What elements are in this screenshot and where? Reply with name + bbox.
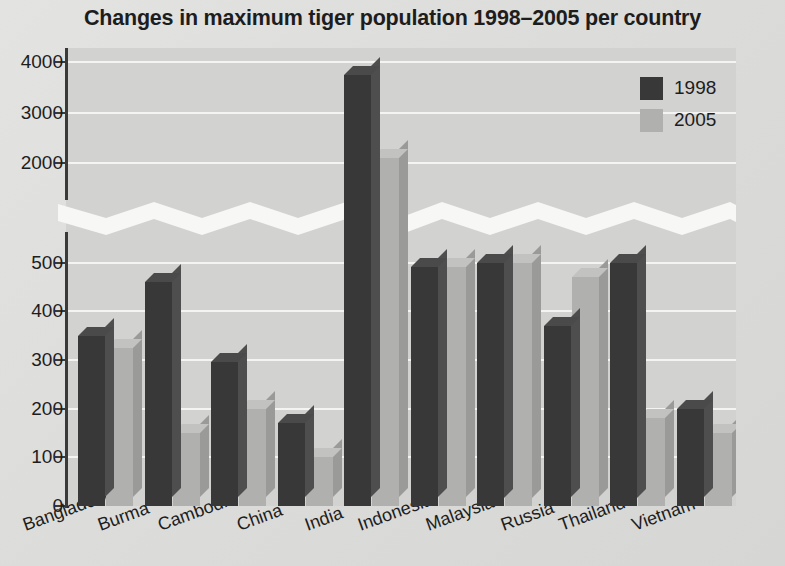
- bar-side-face: [637, 245, 646, 498]
- bar-side-face: [466, 249, 475, 497]
- bar-front-face: [411, 267, 438, 506]
- bar-side-face: [133, 330, 142, 497]
- bar-malaysia-1998: [477, 263, 504, 507]
- y-axis-tick-label: 400: [31, 301, 63, 320]
- bar-thailand-1998: [610, 263, 637, 507]
- bar-indonesia-1998: [411, 267, 438, 506]
- legend-swatch-1998: [640, 77, 663, 100]
- bar-burma-1998: [145, 282, 172, 506]
- x-axis-label-india: India: [302, 503, 346, 536]
- chart-title: Changes in maximum tiger population 1998…: [0, 6, 785, 31]
- bar-side-face: [599, 259, 608, 497]
- legend-item-1998: 1998: [640, 72, 750, 104]
- gridline: [66, 112, 736, 114]
- bar-side-face: [238, 344, 247, 497]
- y-axis-tick-label: 500: [31, 253, 63, 272]
- y-axis-tick-label: 100: [31, 447, 63, 466]
- y-axis-tick-label: 300: [31, 350, 63, 369]
- bar-front-face: [610, 263, 637, 507]
- bar-russia-1998: [544, 326, 571, 506]
- bar-side-face: [532, 245, 541, 498]
- bar-front-face: [211, 362, 238, 506]
- bar-side-face: [504, 245, 513, 498]
- bar-front-face: [78, 336, 105, 506]
- bar-side-face: [172, 264, 181, 497]
- gridline: [66, 61, 736, 63]
- bar-front-face: [477, 263, 504, 507]
- legend-label-2005: 2005: [674, 109, 716, 131]
- bar-side-face: [571, 308, 580, 497]
- y-axis-line-upper: [65, 48, 68, 200]
- bar-front-face: [145, 282, 172, 506]
- chart-legend: 19982005: [640, 72, 750, 136]
- y-axis-line-lower: [65, 232, 68, 508]
- bar-side-face: [105, 318, 114, 497]
- y-axis-tick-label: 200: [31, 399, 63, 418]
- bar-front-face: [677, 409, 704, 506]
- bar-front-face: [278, 423, 305, 506]
- bar-bangladesh-1998: [78, 336, 105, 506]
- bar-cambodia-1998: [211, 362, 238, 506]
- bar-front-face: [544, 326, 571, 506]
- bar-india-1998: [344, 75, 371, 506]
- bar-side-face: [371, 57, 380, 497]
- legend-label-1998: 1998: [674, 77, 716, 99]
- bar-china-1998: [278, 423, 305, 506]
- bar-side-face: [399, 140, 408, 497]
- legend-item-2005: 2005: [640, 104, 750, 136]
- y-axis-tick-label: 3000: [21, 103, 63, 122]
- bar-side-face: [438, 249, 447, 497]
- bar-front-face: [344, 75, 371, 506]
- legend-swatch-2005: [640, 109, 663, 132]
- chart-figure: Changes in maximum tiger population 1998…: [0, 0, 785, 566]
- y-axis-tick-label: 2000: [21, 153, 63, 172]
- bar-vietnam-1998: [677, 409, 704, 506]
- y-axis-tick-label: 4000: [21, 52, 63, 71]
- plot-area: [66, 48, 736, 506]
